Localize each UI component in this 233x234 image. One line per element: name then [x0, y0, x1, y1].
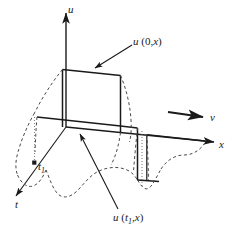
initial-profile-fn: u: [133, 35, 139, 47]
figure-container: u x t v t1 u (0,x) u (t1,x): [0, 0, 233, 234]
t1-label-subscript: 1: [41, 166, 45, 175]
envelope-bottom-right: [99, 167, 138, 180]
envelope-initial-inner-drop: [111, 133, 121, 166]
t1-plane-base-line-right: [121, 126, 138, 128]
later-profile-leader-line: [80, 134, 118, 209]
envelope-origin-tie: [35, 117, 37, 152]
t-axis-label: t: [15, 199, 18, 210]
shifted-pulse-bottom-edge: [138, 180, 160, 182]
dotted-projection-group: [35, 117, 142, 188]
x-axis-label: x: [219, 139, 224, 150]
t1-label: t1: [38, 161, 45, 175]
envelope-notch-v: [138, 169, 162, 189]
later-profile-label: u (t1,x): [113, 212, 143, 226]
velocity-label: v: [210, 112, 215, 123]
initial-pulse-top-edge: [63, 70, 121, 76]
t1-plane-base-line: [37, 117, 121, 126]
initial-profile-label: u (0,x): [133, 36, 162, 47]
t1-plane-line-far-right: [147, 135, 205, 141]
initial-profile-leader-line: [95, 45, 132, 68]
axis-group: [16, 13, 214, 196]
envelope-left-lower: [16, 113, 35, 175]
velocity-arrow: [168, 112, 203, 117]
u-axis-label: u: [68, 4, 74, 15]
envelope-right-rise: [161, 143, 205, 169]
velocity-arrow-group: [168, 112, 203, 117]
envelope-left-upper: [35, 70, 63, 114]
diagram-canvas: [0, 0, 233, 234]
later-profile-fn: u: [113, 211, 119, 223]
dashed-envelope-group: [16, 70, 205, 197]
t1-tick-marker: [32, 161, 36, 165]
envelope-bottom-trough: [46, 170, 99, 197]
later-profile-close: ): [140, 211, 144, 223]
initial-profile-close: ): [158, 35, 162, 47]
initial-profile-open: (0,: [141, 35, 153, 47]
